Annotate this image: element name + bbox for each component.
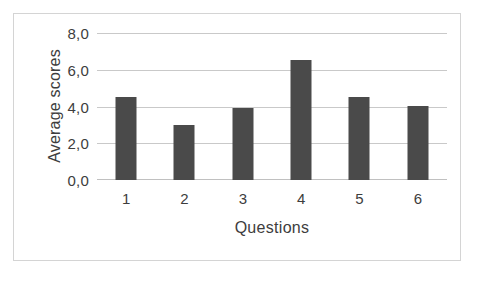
bar-slot-2 [155, 33, 213, 180]
plot-area [97, 33, 447, 180]
x-tick-label-4: 4 [272, 190, 330, 207]
bar-question-2[interactable] [174, 125, 195, 180]
x-tick-label-1: 1 [97, 190, 155, 207]
y-tick-label-0: 0,0 [68, 172, 89, 189]
bar-question-6[interactable] [407, 106, 428, 180]
bar-slot-4 [272, 33, 330, 180]
x-axis-tick-labels: 1 2 3 4 5 6 [97, 190, 447, 214]
bar-question-5[interactable] [349, 97, 370, 180]
bar-slot-6 [389, 33, 447, 180]
y-tick-label-8: 8,0 [68, 25, 89, 42]
x-tick-label-5: 5 [330, 190, 388, 207]
x-tick-label-3: 3 [214, 190, 272, 207]
bar-slot-5 [330, 33, 388, 180]
bar-slot-1 [97, 33, 155, 180]
bar-question-3[interactable] [232, 108, 253, 180]
x-axis-title: Questions [97, 219, 447, 237]
bars-layer [97, 33, 447, 180]
y-axis-tick-labels: 8,0 6,0 4,0 2,0 0,0 [0, 0, 97, 283]
bar-question-4[interactable] [291, 60, 312, 180]
bar-question-1[interactable] [116, 97, 137, 180]
bar-slot-3 [214, 33, 272, 180]
y-tick-label-6: 6,0 [68, 61, 89, 78]
x-tick-label-2: 2 [155, 190, 213, 207]
x-tick-label-6: 6 [389, 190, 447, 207]
y-tick-label-4: 4,0 [68, 98, 89, 115]
y-tick-label-2: 2,0 [68, 135, 89, 152]
